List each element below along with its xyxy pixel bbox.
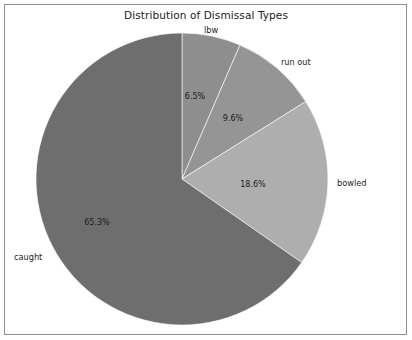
pie-percent-label-caught: 65.3%	[84, 218, 110, 227]
pie-category-label-caught: caught	[14, 252, 43, 262]
figure-canvas: Distribution of Dismissal Types 6.5%9.6%…	[0, 0, 412, 340]
pie-category-label-lbw: lbw	[204, 25, 218, 35]
pie-percent-label-bowled: 18.6%	[240, 180, 266, 189]
pie-chart: 6.5%9.6%18.6%65.3% lbwrun outbowledcaugh…	[0, 0, 412, 340]
pie-category-label-run-out: run out	[281, 57, 312, 67]
pie-slices-group	[36, 33, 328, 325]
pie-percent-label-lbw: 6.5%	[185, 92, 206, 101]
pie-category-label-bowled: bowled	[337, 178, 366, 188]
pie-percent-label-run-out: 9.6%	[223, 114, 244, 123]
